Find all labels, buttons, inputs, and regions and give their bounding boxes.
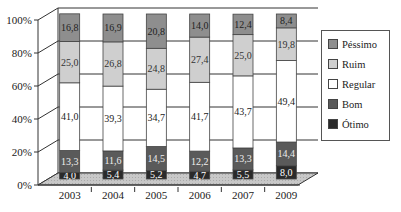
bar-value-label: 26,8 [104, 58, 122, 69]
bar-value-label: 49,4 [278, 96, 296, 107]
legend-label: Ruim [342, 59, 365, 70]
y-tick-label: 40% [12, 113, 32, 125]
x-tick-label: 2004 [102, 189, 125, 201]
legend-swatch-bom [328, 99, 338, 109]
x-tick-label: 2009 [275, 189, 298, 201]
bar-value-label: 25,0 [61, 57, 79, 68]
bar-value-label: 5,5 [237, 169, 250, 180]
bar-value-label: 19,8 [278, 39, 296, 50]
y-tick-label: 0% [17, 179, 32, 191]
bar-value-label: 13,3 [234, 153, 252, 164]
legend-item-ruim: Ruim [328, 57, 365, 71]
x-tick-label: 2003 [59, 189, 82, 201]
x-tick-label: 2007 [232, 189, 255, 201]
legend-label: Péssimo [342, 39, 377, 50]
bar-value-label: 5,4 [107, 169, 120, 180]
bar-value-label: 11,6 [104, 155, 121, 166]
bar-value-label: 14,5 [148, 153, 166, 164]
y-tick-label: 20% [12, 146, 32, 158]
bar-value-label: 41,0 [61, 111, 79, 122]
bar-value-label: 41,7 [191, 111, 209, 122]
chart-bars: 4,013,341,025,016,85,411,639,326,816,95,… [60, 14, 297, 181]
y-tick-label: 80% [12, 47, 32, 59]
x-tick-label: 2005 [145, 189, 168, 201]
y-tick-label: 60% [12, 80, 32, 92]
legend-item-pessimo: Péssimo [328, 37, 377, 51]
bar-value-label: 8,0 [280, 167, 293, 178]
legend-label: Regular [342, 79, 375, 90]
bar-value-label: 13,3 [61, 156, 79, 167]
bar-value-label: 14,4 [278, 148, 296, 159]
bar-value-label: 16,9 [104, 22, 122, 33]
bar-value-label: 24,8 [148, 63, 166, 74]
bar-value-label: 5,2 [150, 169, 163, 180]
bar-value-label: 12,2 [191, 156, 209, 167]
bar-value-label: 12,4 [234, 19, 252, 30]
bar-value-label: 39,3 [104, 113, 122, 124]
legend-item-bom: Bom [328, 97, 362, 111]
legend-label: Ótimo [342, 119, 369, 130]
bar-value-label: 20,8 [148, 26, 166, 37]
bar-value-label: 25,0 [234, 50, 252, 61]
bar-value-label: 43,7 [234, 106, 252, 117]
legend-item-otimo: Ótimo [328, 117, 369, 131]
legend-label: Bom [342, 99, 362, 110]
bar-value-label: 34,7 [148, 112, 166, 123]
bar-value-label: 14,0 [191, 20, 209, 31]
bar-value-label: 8,4 [280, 15, 293, 26]
x-axis-labels: 200320042005200620072009 [59, 187, 298, 201]
chart-legend: Péssimo Ruim Regular Bom Ótimo [321, 30, 390, 141]
bar-value-label: 16,8 [61, 22, 79, 33]
bar-value-label: 27,4 [191, 54, 209, 65]
legend-swatch-ruim [328, 59, 338, 69]
legend-swatch-otimo [328, 119, 338, 129]
legend-swatch-pessimo [328, 39, 338, 49]
legend-swatch-regular [328, 79, 338, 89]
x-tick-label: 2006 [189, 189, 212, 201]
legend-item-regular: Regular [328, 77, 375, 91]
y-tick-label: 100% [6, 14, 32, 26]
